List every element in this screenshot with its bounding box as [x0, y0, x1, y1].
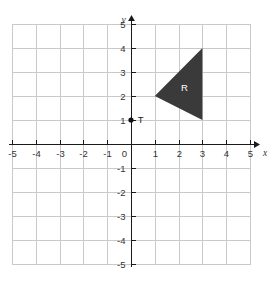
y-axis-arrowhead-icon — [128, 15, 135, 21]
y-axis-tick-label: -1 — [117, 163, 125, 174]
y-axis-tick-label: 2 — [120, 91, 125, 102]
y-axis-tick-label: -5 — [117, 259, 125, 270]
plotted-point-t — [128, 117, 133, 122]
coordinate-plane-figure: -5-4-3-2-1012345-5-4-3-2-112345 R T xy — [0, 0, 273, 281]
x-axis-tick-label: 4 — [224, 148, 229, 159]
y-axis-tick-label: 4 — [120, 43, 125, 54]
x-axis-tick-label: -4 — [32, 148, 40, 159]
x-axis-tick-label: 5 — [248, 148, 253, 159]
y-axis-tick-label: -4 — [117, 235, 125, 246]
x-axis-tick-label: 3 — [200, 148, 205, 159]
x-axis-tick-label: -1 — [103, 148, 111, 159]
x-axis-tick-label: -3 — [56, 148, 64, 159]
x-axis-tick-label: -2 — [79, 148, 87, 159]
points-group: T — [128, 114, 143, 125]
y-axis-tick-label: 3 — [120, 67, 125, 78]
point-label-t: T — [138, 114, 144, 125]
x-axis-arrowhead-icon — [254, 141, 260, 148]
y-axis-tick-label: -3 — [117, 211, 125, 222]
shape-polygon-r — [155, 48, 203, 120]
x-axis-name-label: x — [262, 148, 268, 158]
shapes-group: R — [155, 48, 203, 120]
axes-group — [9, 15, 260, 267]
y-axis-name-label: y — [121, 15, 127, 25]
shape-label-r: R — [181, 82, 188, 93]
y-axis-tick-label: 1 — [120, 115, 125, 126]
y-axis-tick-label: -2 — [117, 187, 125, 198]
x-axis-tick-label: 2 — [177, 148, 182, 159]
x-axis-tick-label: 1 — [153, 148, 158, 159]
coordinate-plane-svg: -5-4-3-2-1012345-5-4-3-2-112345 R T xy — [0, 0, 273, 281]
x-axis-tick-label: -5 — [8, 148, 16, 159]
origin-label: 0 — [122, 148, 127, 159]
